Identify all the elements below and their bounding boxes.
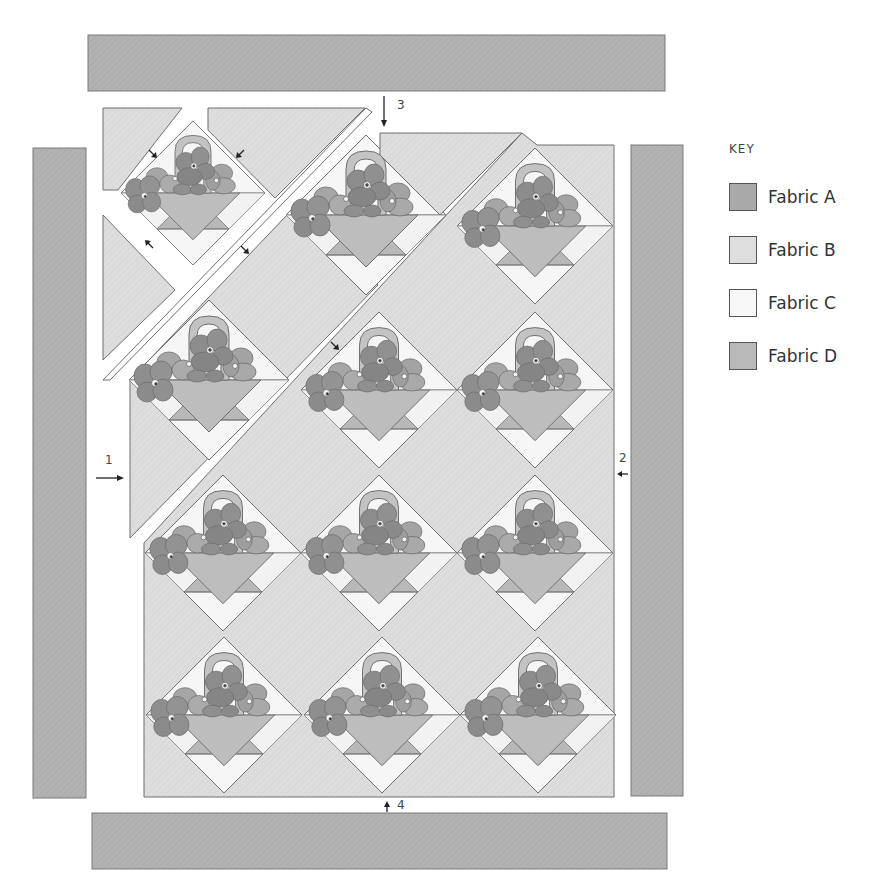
key-item-fabric-d: Fabric D (729, 341, 837, 370)
arrow-icon-step-2 (617, 471, 628, 477)
key-title: KEY (729, 142, 837, 156)
swatch-fabric-b (729, 236, 757, 264)
step-label-1: 1 (105, 453, 113, 467)
step-label-4: 4 (397, 798, 405, 812)
swatch-fabric-d (729, 342, 757, 370)
swatch-fabric-c (729, 289, 757, 317)
quilt-assembly-diagram (0, 0, 891, 896)
step-label-2: 2 (619, 451, 627, 465)
key-label: Fabric B (768, 240, 836, 260)
arrow-icon-step-1 (96, 475, 124, 481)
fabric-key: KEY Fabric A Fabric B Fabric C Fabric D (729, 142, 837, 394)
bottom-border (92, 813, 667, 869)
key-label: Fabric A (768, 187, 836, 207)
key-item-fabric-a: Fabric A (729, 182, 837, 211)
key-item-fabric-b: Fabric B (729, 235, 837, 264)
key-label: Fabric D (768, 346, 837, 366)
arrow-icon-step-4 (384, 801, 390, 812)
step-label-3: 3 (397, 98, 405, 112)
left-border (33, 148, 86, 798)
right-border (631, 145, 683, 796)
swatch-fabric-a (729, 183, 757, 211)
arrow-icon-step-3 (381, 96, 387, 127)
key-item-fabric-c: Fabric C (729, 288, 837, 317)
top-border (88, 35, 665, 91)
key-label: Fabric C (768, 293, 836, 313)
